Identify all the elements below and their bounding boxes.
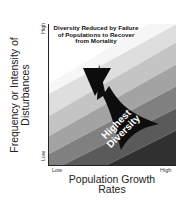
x-tick-high: High: [160, 167, 171, 173]
x-tick-low: Low: [52, 167, 62, 173]
y-axis-label: Frequency or Intensity of Disturbances: [9, 20, 31, 170]
top-annotation: Diversity Reduced by Failure of Populati…: [51, 25, 141, 45]
y-tick-low: Low: [40, 151, 46, 161]
y-axis-label-area: Frequency or Intensity of Disturbances: [0, 24, 40, 166]
x-axis-label-line2: Rates: [48, 184, 176, 194]
y-tick-high: High: [40, 23, 46, 34]
x-axis-label: Population Growth Rates: [48, 174, 176, 194]
